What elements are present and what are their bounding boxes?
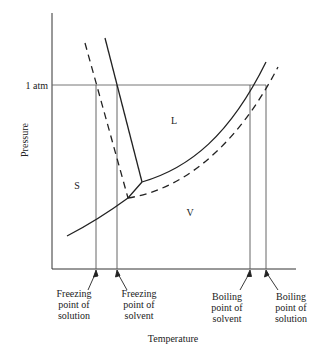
x-axis-label: Temperature — [148, 333, 199, 344]
boiling-solution-annotation: Boiling point of solution — [275, 291, 307, 324]
solution-fusion-line — [85, 43, 128, 198]
svg-text:solution: solution — [58, 310, 90, 321]
svg-text:Freezing: Freezing — [122, 288, 157, 299]
svg-text:Boiling: Boiling — [212, 291, 242, 302]
y-axis-label: Pressure — [19, 123, 30, 157]
svg-text:solution: solution — [275, 313, 307, 324]
svg-text:point of: point of — [123, 299, 155, 310]
svg-text:Boiling: Boiling — [276, 291, 306, 302]
freezing-solution-arrow — [88, 270, 98, 290]
liquid-region-label: L — [171, 115, 177, 126]
freezing-solvent-annotation: Freezing point of solvent — [122, 288, 157, 321]
solvent-fusion-line — [105, 38, 142, 182]
svg-text:point of: point of — [211, 302, 243, 313]
svg-text:Freezing: Freezing — [57, 288, 92, 299]
vapor-region-label: V — [186, 207, 194, 218]
boiling-solvent-arrow — [240, 270, 252, 290]
freezing-solvent-arrow — [116, 270, 128, 290]
phase-diagram: 1 atm Pressure Temperature S L V Freezin… — [0, 0, 331, 357]
freezing-solution-annotation: Freezing point of solution — [57, 288, 92, 321]
solution-vaporization-curve — [128, 67, 278, 198]
solvent-vaporization-curve — [142, 62, 266, 182]
boiling-solvent-annotation: Boiling point of solvent — [211, 291, 243, 324]
svg-text:point of: point of — [275, 302, 307, 313]
svg-text:solvent: solvent — [125, 310, 154, 321]
solid-region-label: S — [74, 180, 80, 191]
svg-text:solvent: solvent — [213, 313, 242, 324]
boiling-solution-arrow — [265, 270, 279, 290]
svg-text:point of: point of — [58, 299, 90, 310]
one-atm-label: 1 atm — [26, 80, 49, 91]
